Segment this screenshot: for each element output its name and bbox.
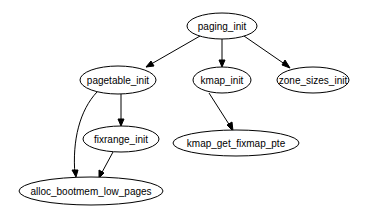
arrowhead-icon bbox=[146, 61, 154, 67]
node-kmap_init[interactable]: kmap_init bbox=[193, 67, 251, 93]
call-graph-diagram: paging_init pagetable_init kmap_init zon… bbox=[0, 0, 369, 217]
arrowhead-icon bbox=[72, 170, 78, 177]
node-pagetable_init[interactable]: pagetable_init bbox=[80, 66, 156, 94]
node-alloc_bootmem_low_pages[interactable]: alloc_bootmem_low_pages bbox=[19, 177, 163, 205]
node-paging_init[interactable]: paging_init bbox=[187, 13, 257, 39]
node-zone_sizes_init[interactable]: zone_sizes_init bbox=[277, 67, 349, 93]
node-label: alloc_bootmem_low_pages bbox=[30, 186, 151, 197]
edge-paging_init-to-kmap_init bbox=[219, 39, 225, 67]
arrowhead-icon bbox=[219, 60, 225, 67]
node-label: kmap_init bbox=[201, 75, 244, 86]
arrowhead-icon bbox=[118, 119, 124, 126]
arrowhead-icon bbox=[282, 60, 290, 68]
node-label: zone_sizes_init bbox=[279, 75, 348, 86]
edge-paging_init-to-zone_sizes_init bbox=[244, 36, 290, 68]
edge-kmap_init-to-kmap_get_fixmap_pte bbox=[209, 93, 233, 131]
node-label: fixrange_init bbox=[94, 134, 148, 145]
node-fixrange_init[interactable]: fixrange_init bbox=[83, 126, 159, 152]
node-label: pagetable_init bbox=[87, 75, 149, 86]
edge-pagetable_init-to-fixrange_init bbox=[118, 94, 124, 126]
edge-fixrange_init-to-alloc_bootmem_low_pages bbox=[99, 152, 113, 178]
node-kmap_get_fixmap_pte[interactable]: kmap_get_fixmap_pte bbox=[173, 130, 299, 156]
edge-paging_init-to-pagetable_init bbox=[146, 36, 200, 67]
node-label: paging_init bbox=[198, 21, 247, 32]
node-label: kmap_get_fixmap_pte bbox=[187, 138, 286, 149]
